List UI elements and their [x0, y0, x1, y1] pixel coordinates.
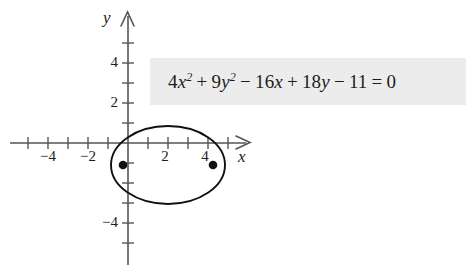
x-tick-label-2: 2	[158, 148, 172, 165]
eq-equals: =	[368, 71, 387, 92]
y-axis-label: y	[103, 8, 111, 28]
eq-op-3: +	[283, 71, 302, 92]
eq-coef-1: 4	[168, 71, 178, 92]
x-tick-label--2: −2	[78, 148, 98, 165]
x-tick-label-4: 4	[198, 148, 212, 165]
equation-text: 4x2+9y2−16x+18y−11=0	[168, 71, 396, 93]
equation-callout-box: 4x2+9y2−16x+18y−11=0	[150, 58, 466, 105]
eq-op-4: −	[330, 71, 349, 92]
y-tick-label-4: 4	[104, 54, 118, 71]
eq-coef-4: 18	[302, 71, 321, 92]
eq-op-2: −	[236, 71, 255, 92]
x-tick-label--4: −4	[38, 148, 58, 165]
eq-rhs: 0	[387, 71, 397, 92]
eq-const: 11	[349, 71, 368, 92]
plot-canvas	[0, 0, 466, 269]
eq-var-2: y	[221, 71, 230, 92]
eq-var-3: x	[274, 71, 283, 92]
eq-exp-1: 2	[186, 69, 192, 83]
y-tick-label--4: −4	[94, 214, 118, 231]
eq-coef-2: 9	[211, 71, 221, 92]
eq-var-4: y	[321, 71, 330, 92]
y-tick-label-2: 2	[104, 94, 118, 111]
ellipse-figure: −4 −2 2 4 4 2 −4 x y 4x2+9y2−16x+18y−11=…	[0, 0, 466, 269]
x-axis-label: x	[238, 147, 246, 167]
focus-point-left	[119, 161, 128, 170]
eq-op-1: +	[193, 71, 212, 92]
eq-coef-3: 16	[255, 71, 274, 92]
